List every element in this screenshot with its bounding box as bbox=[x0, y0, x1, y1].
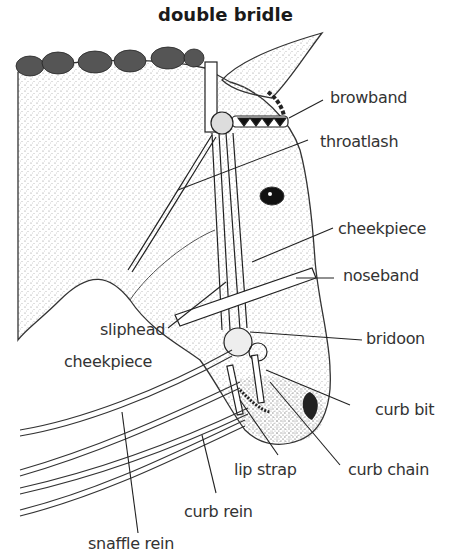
label-curb-rein: curb rein bbox=[184, 502, 253, 521]
label-noseband: noseband bbox=[343, 266, 419, 285]
label-snaffle-rein: snaffle rein bbox=[88, 534, 174, 550]
label-sliphead-line1: sliphead bbox=[87, 320, 165, 339]
label-cheekpiece: cheekpiece bbox=[338, 219, 426, 238]
label-browband: browband bbox=[330, 88, 407, 107]
label-curb-bit: curb bit bbox=[375, 400, 434, 419]
eye bbox=[260, 187, 284, 205]
rosette bbox=[211, 112, 233, 134]
label-sliphead-line2: cheekpiece bbox=[64, 352, 152, 371]
label-lip-strap: lip strap bbox=[234, 460, 297, 479]
horse-outline bbox=[16, 33, 330, 444]
label-bridoon: bridoon bbox=[366, 329, 425, 348]
label-curb-chain: curb chain bbox=[348, 460, 429, 479]
label-throatlash: throatlash bbox=[320, 132, 398, 151]
